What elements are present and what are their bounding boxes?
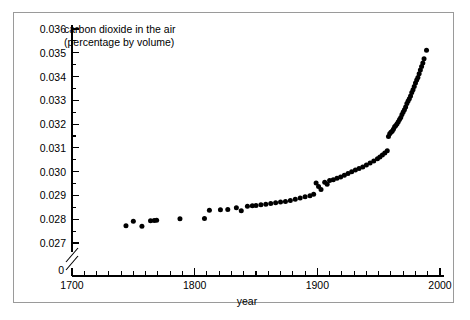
data-point: [420, 61, 425, 66]
data-points-layer: [123, 48, 429, 229]
x-axis-title: year: [0, 295, 470, 307]
title-line-2: (percentage by volume): [64, 36, 176, 49]
data-point: [202, 216, 207, 221]
y-tick-label: 0.032: [18, 119, 66, 130]
data-point: [385, 148, 390, 153]
data-point: [273, 200, 278, 205]
chart-figure: carbon dioxide in the air (percentage by…: [0, 0, 470, 320]
data-point: [288, 198, 293, 203]
title-line-1: carbon dioxide in the air: [64, 23, 176, 36]
data-point: [234, 205, 239, 210]
data-point: [298, 196, 303, 201]
y-tick-label: 0.035: [18, 48, 66, 59]
data-point: [263, 202, 268, 207]
data-point: [123, 223, 128, 228]
y-tick-label: 0.031: [18, 143, 66, 154]
y-tick-label: 0.034: [18, 72, 66, 83]
data-point: [258, 202, 263, 207]
data-point: [131, 219, 136, 224]
x-tick-label: 1800: [165, 280, 225, 291]
data-point: [303, 194, 308, 199]
y-tick-label: 0.033: [18, 95, 66, 106]
data-point: [245, 204, 250, 209]
y-axis-zero-label: 0: [48, 265, 64, 276]
x-tick-label: 1700: [42, 280, 102, 291]
data-point: [139, 224, 144, 229]
data-point: [177, 216, 182, 221]
data-point: [254, 203, 259, 208]
x-tick-label: 2000: [410, 280, 470, 291]
y-tick-label: 0.029: [18, 190, 66, 201]
data-point: [207, 208, 212, 213]
y-tick-label: 0.027: [18, 238, 66, 249]
data-point: [218, 207, 223, 212]
data-point: [278, 200, 283, 205]
data-point: [154, 218, 159, 223]
data-point: [283, 199, 288, 204]
chart-title: carbon dioxide in the air (percentage by…: [64, 23, 176, 50]
x-tick-label: 1900: [287, 280, 347, 291]
data-point: [311, 192, 316, 197]
data-point: [422, 56, 427, 61]
data-point: [319, 187, 324, 192]
data-point: [293, 197, 298, 202]
data-point: [424, 48, 429, 53]
data-point: [268, 201, 273, 206]
y-tick-label: 0.028: [18, 214, 66, 225]
data-point: [225, 207, 230, 212]
data-point: [239, 208, 244, 213]
y-tick-label: 0.030: [18, 167, 66, 178]
y-tick-label: 0.036: [18, 24, 66, 35]
